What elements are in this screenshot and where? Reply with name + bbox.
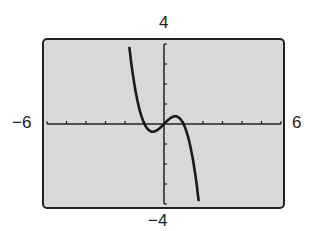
xmax-label: 6 xyxy=(292,113,301,133)
plot-area xyxy=(0,0,310,231)
xmin-label: −6 xyxy=(12,113,31,133)
ymin-label: −4 xyxy=(148,211,167,231)
ymax-label: 4 xyxy=(159,13,168,33)
